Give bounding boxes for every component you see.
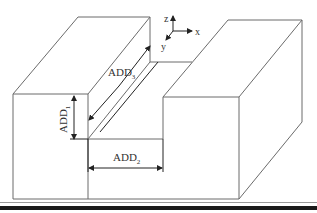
- right-block: [163, 20, 302, 199]
- y-axis-arrow: [166, 31, 173, 40]
- coordinate-axes: z x y: [161, 13, 200, 52]
- dimension-add2: ADD2: [88, 139, 163, 172]
- right-block-top-right-edge: [239, 20, 302, 97]
- add1-label: ADD1: [57, 105, 72, 133]
- right-block-side-face: [239, 20, 302, 199]
- groove-block-diagram: z x y ADD1 ADD2 ADD3: [0, 0, 317, 213]
- add2-label: ADD2: [113, 151, 141, 166]
- figure-divider-thin: [0, 202, 317, 203]
- right-block-front-face: [163, 97, 239, 199]
- dimension-add1: ADD1: [57, 96, 88, 139]
- z-axis-label: z: [164, 13, 169, 24]
- y-axis-label: y: [161, 41, 166, 52]
- left-block-top-left-edge: [13, 17, 78, 94]
- left-block-front-face: [13, 94, 88, 199]
- add3-label: ADD3: [108, 66, 136, 81]
- left-block: [13, 17, 150, 199]
- figure-divider: [0, 206, 317, 210]
- dimension-add3: ADD3: [89, 46, 158, 132]
- x-axis-label: x: [195, 26, 200, 37]
